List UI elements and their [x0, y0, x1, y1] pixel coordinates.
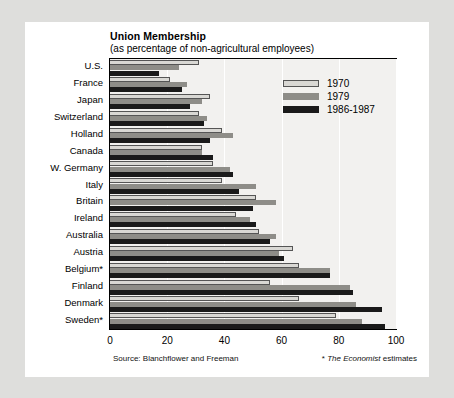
y-label-ireland: Ireland	[0, 212, 103, 223]
y-label-italy: Italy	[0, 179, 103, 190]
y-label-finland: Finland	[0, 280, 103, 291]
bar-denmark-1986-1987	[110, 307, 382, 312]
x-tick-80: 80	[333, 335, 344, 346]
bar-holland-1986-1987	[110, 138, 210, 143]
bar-france-1986-1987	[110, 87, 182, 92]
chart-legend: 197019791986-1987	[283, 78, 403, 117]
bar-row	[110, 160, 396, 177]
chart-title: Union Membership	[110, 30, 206, 42]
legend-swatch-1979	[283, 93, 319, 100]
bar-row	[110, 127, 396, 144]
bar-belgium-1986-1987	[110, 273, 330, 278]
x-tick-40: 40	[219, 335, 230, 346]
y-label-belgium: Belgium*	[0, 263, 103, 274]
bar-row	[110, 245, 396, 262]
bar-britain-1986-1987	[110, 206, 253, 211]
legend-item-1970: 1970	[283, 78, 403, 91]
y-label-holland: Holland	[0, 128, 103, 139]
x-tick-20: 20	[162, 335, 173, 346]
y-axis-category-labels: U.S.FranceJapanSwitzerlandHollandCanadaW…	[25, 58, 109, 330]
x-axis: 020406080100	[109, 331, 397, 351]
y-label-wgermany: W. Germany	[0, 162, 103, 173]
legend-item-1986-1987: 1986-1987	[283, 104, 403, 117]
bar-row	[110, 295, 396, 312]
y-label-sweden: Sweden*	[0, 314, 103, 325]
footnote-marker: *	[322, 354, 325, 363]
x-tick-0: 0	[107, 335, 113, 346]
y-label-australia: Australia	[0, 229, 103, 240]
footnote-economist-estimates: * The Economist estimates	[322, 354, 417, 363]
bar-sweden-1986-1987	[110, 324, 385, 329]
chart-subtitle: (as percentage of non-agricultural emplo…	[110, 43, 314, 54]
bar-ireland-1986-1987	[110, 222, 256, 227]
bar-us-1986-1987	[110, 71, 159, 76]
y-label-japan: Japan	[0, 94, 103, 105]
bar-austria-1986-1987	[110, 256, 284, 261]
legend-label-1970: 1970	[327, 78, 349, 89]
bar-row	[110, 194, 396, 211]
footnote-rest: estimates	[383, 354, 417, 363]
bar-row	[110, 59, 396, 76]
bar-row	[110, 278, 396, 295]
bar-row	[110, 262, 396, 279]
bar-canada-1986-1987	[110, 155, 213, 160]
legend-label-1979: 1979	[327, 91, 349, 102]
bar-italy-1986-1987	[110, 189, 239, 194]
bar-switzerland-1986-1987	[110, 121, 204, 126]
y-label-britain: Britain	[0, 195, 103, 206]
legend-label-1986-1987: 1986-1987	[327, 104, 375, 115]
y-label-denmark: Denmark	[0, 297, 103, 308]
chart-figure: Union Membership (as percentage of non-a…	[25, 22, 429, 377]
legend-swatch-1970	[283, 80, 319, 87]
y-label-france: France	[0, 77, 103, 88]
source-note: Source: Blanchflower and Freeman	[113, 354, 238, 363]
legend-swatch-1986-1987	[283, 106, 319, 113]
y-label-austria: Austria	[0, 246, 103, 257]
y-label-us: U.S.	[0, 60, 103, 71]
y-label-canada: Canada	[0, 145, 103, 156]
y-label-switzerland: Switzerland	[0, 111, 103, 122]
bar-australia-1986-1987	[110, 239, 270, 244]
bar-row	[110, 228, 396, 245]
legend-item-1979: 1979	[283, 91, 403, 104]
bar-row	[110, 211, 396, 228]
footnote-publication: The Economist	[327, 354, 380, 363]
bar-wgermany-1986-1987	[110, 172, 233, 177]
bar-finland-1986-1987	[110, 290, 353, 295]
x-tick-60: 60	[276, 335, 287, 346]
bar-japan-1986-1987	[110, 104, 190, 109]
bar-row	[110, 143, 396, 160]
bar-row	[110, 312, 396, 329]
x-tick-100: 100	[388, 335, 405, 346]
bar-row	[110, 177, 396, 194]
